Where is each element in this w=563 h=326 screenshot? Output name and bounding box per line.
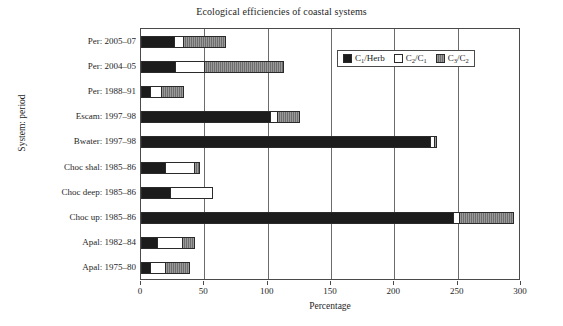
x-axis-tick-label: 250: [450, 286, 464, 296]
x-axis-tick: [267, 281, 268, 285]
chart-figure: Ecological efficiencies of coastal syste…: [0, 0, 563, 326]
chart-title: Ecological efficiencies of coastal syste…: [0, 6, 563, 17]
x-axis-tick: [140, 281, 141, 285]
x-axis-ticks: 050100150200250300: [140, 281, 520, 297]
legend-label: C2/C1: [406, 53, 427, 64]
legend-swatch-icon: [436, 54, 445, 63]
y-axis-tick-label: Per: 2005–07: [4, 35, 136, 47]
x-axis-tick: [457, 281, 458, 285]
x-axis-tick: [393, 281, 394, 285]
bar-row: [141, 237, 195, 249]
bar-segment: [141, 212, 454, 224]
bar-segment: [183, 36, 226, 48]
bar-segment: [170, 187, 213, 199]
y-axis-tick-label: Choc deep: 1985–86: [4, 186, 136, 198]
bar-row: [141, 86, 184, 98]
legend-entry[interactable]: C2/C1: [394, 53, 427, 64]
bar-segment: [141, 61, 176, 73]
bar-segment: [141, 136, 431, 148]
y-axis-tick-labels: Per: 2005–07Per: 2004–05Per: 1988–91Esca…: [0, 28, 136, 280]
bar-segment: [141, 237, 158, 249]
bar-row: [141, 212, 514, 224]
bar-segment: [141, 111, 271, 123]
bar-segment: [194, 162, 200, 174]
x-axis-tick-label: 50: [199, 286, 208, 296]
x-axis-tick-label: 100: [260, 286, 274, 296]
legend-entry[interactable]: C3/C2: [436, 53, 469, 64]
x-axis-tick: [203, 281, 204, 285]
legend-label: C3/C2: [448, 53, 469, 64]
bar-segment: [165, 262, 190, 274]
bar-row: [141, 162, 200, 174]
bar-segment: [434, 136, 438, 148]
y-axis-tick-label: Bwater: 1997–98: [4, 135, 136, 147]
chart-legend: C1/HerbC2/C1C3/C2: [337, 50, 475, 67]
y-axis-tick-label: Per: 2004–05: [4, 60, 136, 72]
x-axis-title: Percentage: [140, 301, 520, 311]
bar-segment: [141, 162, 166, 174]
legend-label: C1/Herb: [355, 53, 385, 64]
bar-segment: [175, 61, 205, 73]
bar-segment: [182, 237, 196, 249]
bar-segment: [150, 262, 166, 274]
bar-segment: [277, 111, 301, 123]
x-axis-tick: [520, 281, 521, 285]
bar-segment: [141, 36, 175, 48]
bar-row: [141, 61, 284, 73]
bar-row: [141, 262, 190, 274]
legend-swatch-icon: [343, 54, 352, 63]
x-axis-tick: [330, 281, 331, 285]
bar-segment: [165, 162, 195, 174]
bar-segment: [161, 86, 184, 98]
x-axis-tick-label: 150: [323, 286, 337, 296]
x-axis-tick-label: 300: [513, 286, 527, 296]
x-axis-tick-label: 0: [138, 286, 143, 296]
y-axis-tick-label: Choc shal: 1985–86: [4, 161, 136, 173]
y-axis-tick-label: Choc up: 1985–86: [4, 211, 136, 223]
bar-row: [141, 136, 437, 148]
bar-segment: [141, 187, 171, 199]
bar-segment: [459, 212, 514, 224]
legend-entry[interactable]: C1/Herb: [343, 53, 385, 64]
y-axis-tick-label: Apal: 1975–80: [4, 261, 136, 273]
bar-segment: [204, 61, 284, 73]
bar-row: [141, 187, 213, 199]
y-axis-tick-label: Per: 1988–91: [4, 85, 136, 97]
bar-row: [141, 36, 226, 48]
y-axis-tick-label: Apal: 1982–84: [4, 236, 136, 248]
x-axis-tick-label: 200: [387, 286, 401, 296]
bar-segment: [157, 237, 182, 249]
bar-row: [141, 111, 300, 123]
legend-swatch-icon: [394, 54, 403, 63]
y-axis-tick-label: Escam: 1997–98: [4, 110, 136, 122]
